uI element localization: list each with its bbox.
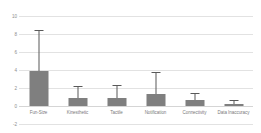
gridline-minus-2 <box>19 124 253 125</box>
error-bar-cap-upper-tactile <box>112 85 121 86</box>
bar-notification <box>146 94 165 106</box>
y-axis-tick-labels: 10 8 6 4 2 0 -2 <box>0 16 17 124</box>
x-tick-data-inaccuracy: Data Inaccuracy <box>218 110 250 116</box>
y-tick-minus-2: -2 <box>1 122 17 127</box>
y-tick-4: 4 <box>1 68 17 73</box>
x-axis-tick-labels: Fun-Size Kinesthetic Tactile Notificatio… <box>19 110 253 122</box>
bar-group-connectivity <box>175 16 214 124</box>
error-bar-cap-upper-kinesthetic <box>73 86 82 87</box>
bar-group-kinesthetic <box>58 16 97 124</box>
y-tick-6: 6 <box>1 50 17 55</box>
y-tick-2: 2 <box>1 86 17 91</box>
bar-kinesthetic <box>68 98 87 106</box>
bar-group-fun-size <box>19 16 58 124</box>
error-bar-cap-upper-fun-size <box>34 30 43 31</box>
x-tick-fun-size: Fun-Size <box>30 110 48 116</box>
bar-fun-size <box>29 71 48 106</box>
y-tick-0: 0 <box>1 104 17 109</box>
x-tick-connectivity: Connectivity <box>183 110 207 116</box>
bar-chart-with-error-bars: 10 8 6 4 2 0 -2 <box>0 0 261 133</box>
error-bar-cap-upper-data-inaccuracy <box>229 100 238 101</box>
bar-group-data-inaccuracy <box>214 16 253 124</box>
bar-series <box>19 16 253 124</box>
bar-connectivity <box>185 100 204 106</box>
bar-group-notification <box>136 16 175 124</box>
x-tick-tactile: Tactile <box>110 110 122 116</box>
x-tick-kinesthetic: Kinesthetic <box>67 110 88 116</box>
error-bar-cap-upper-notification <box>151 72 160 73</box>
y-tick-8: 8 <box>1 32 17 37</box>
error-bar-cap-upper-connectivity <box>190 93 199 94</box>
bar-group-tactile <box>97 16 136 124</box>
x-tick-notification: Notification <box>145 110 167 116</box>
plot-area <box>19 16 253 124</box>
bar-tactile <box>107 98 126 106</box>
y-tick-10: 10 <box>1 14 17 19</box>
bar-data-inaccuracy <box>224 104 243 106</box>
